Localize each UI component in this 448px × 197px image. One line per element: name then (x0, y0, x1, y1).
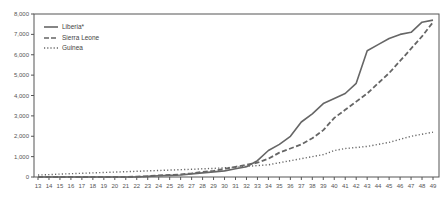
x-tick-label: 42 (353, 183, 360, 189)
y-tick-label: 1,000 (14, 154, 30, 160)
x-tick-label: 17 (79, 183, 86, 189)
x-tick-label: 23 (144, 183, 151, 189)
x-tick-label: 14 (46, 183, 53, 189)
x-tick-label: 13 (35, 183, 42, 189)
y-tick-label: 2,000 (14, 133, 30, 139)
series-line-sierra-leone (38, 22, 433, 177)
y-tick-label: 0 (26, 174, 30, 180)
x-tick-label: 15 (57, 183, 64, 189)
x-tick-label: 49 (430, 183, 437, 189)
x-tick-label: 34 (265, 183, 272, 189)
x-tick-label: 18 (90, 183, 97, 189)
y-tick-label: 6,000 (14, 52, 30, 58)
x-tick-label: 31 (232, 183, 239, 189)
x-tick-label: 19 (100, 183, 107, 189)
legend-label: Guinea (62, 44, 83, 51)
y-tick-label: 7,000 (14, 31, 30, 37)
y-axis: 01,0002,0003,0004,0005,0006,0007,0008,00… (14, 11, 34, 180)
x-tick-label: 43 (364, 183, 371, 189)
x-tick-label: 26 (177, 183, 184, 189)
y-tick-label: 5,000 (14, 72, 30, 78)
x-tick-label: 39 (320, 183, 327, 189)
y-tick-label: 4,000 (14, 93, 30, 99)
x-tick-label: 33 (254, 183, 261, 189)
series-line-liberia (38, 20, 433, 177)
x-tick-label: 30 (221, 183, 228, 189)
x-tick-label: 22 (133, 183, 140, 189)
x-tick-label: 27 (188, 183, 195, 189)
series-lines (38, 20, 433, 177)
y-tick-label: 3,000 (14, 113, 30, 119)
x-tick-label: 41 (342, 183, 349, 189)
x-tick-label: 37 (298, 183, 305, 189)
y-tick-label: 8,000 (14, 11, 30, 17)
legend-label: Liberia* (62, 23, 85, 30)
x-tick-label: 40 (331, 183, 338, 189)
x-tick-label: 16 (68, 183, 75, 189)
line-chart: 01,0002,0003,0004,0005,0006,0007,0008,00… (0, 0, 448, 197)
x-tick-label: 38 (309, 183, 316, 189)
legend-label: Sierra Leone (62, 34, 100, 41)
x-tick-label: 24 (155, 183, 162, 189)
legend-item-liberia: Liberia* (44, 23, 85, 30)
x-tick-label: 36 (287, 183, 294, 189)
x-tick-label: 25 (166, 183, 173, 189)
x-tick-label: 28 (199, 183, 206, 189)
x-tick-label: 29 (210, 183, 217, 189)
x-tick-label: 32 (243, 183, 250, 189)
legend-item-sierra-leone: Sierra Leone (44, 34, 100, 41)
legend-item-guinea: Guinea (44, 44, 83, 51)
x-tick-label: 44 (375, 183, 382, 189)
x-tick-label: 35 (276, 183, 283, 189)
x-tick-label: 46 (397, 183, 404, 189)
x-tick-label: 21 (122, 183, 129, 189)
x-axis: 1314151617181920212223242526272829303132… (35, 177, 437, 189)
x-tick-label: 47 (408, 183, 415, 189)
x-tick-label: 45 (386, 183, 393, 189)
legend: Liberia* Sierra Leone Guinea (44, 23, 100, 51)
x-tick-label: 20 (111, 183, 118, 189)
x-tick-label: 48 (419, 183, 426, 189)
